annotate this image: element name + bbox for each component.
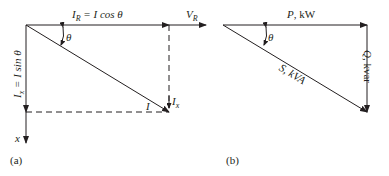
diagram-a [26,25,206,143]
panel-label-b: (b) [226,155,239,166]
theta-arc-a [61,27,64,45]
i-label: I [146,101,150,112]
theta-arc-b [264,27,267,45]
i-phasor [26,25,169,112]
q-label: Q, kvar [362,50,373,83]
ix-label: Ix [172,96,179,110]
p-label: P, kW [287,9,315,20]
ix-side-label: Ix = I sin θ [12,50,26,98]
vr-label: VR [186,9,198,23]
phasor-diagrams [0,0,389,176]
ir-label: IR = I cos θ [72,9,123,23]
x-axis-label: x [15,133,20,144]
panel-label-a: (a) [10,155,22,166]
theta-label-b: θ [268,32,273,43]
theta-label-a: θ [66,32,71,43]
